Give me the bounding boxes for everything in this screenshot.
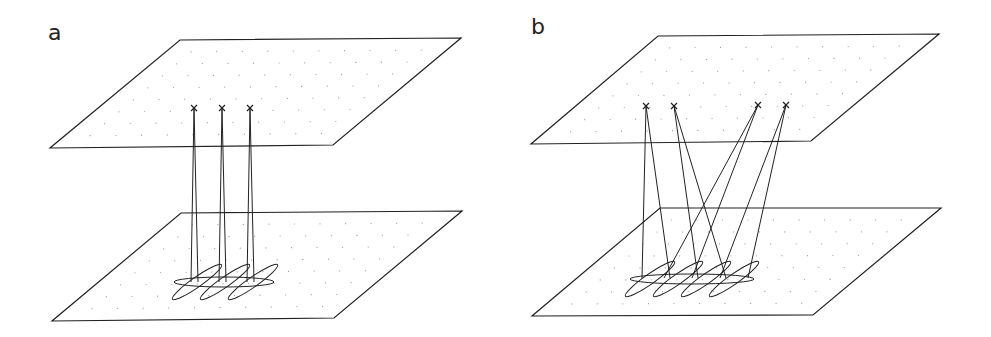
panel-b-bottom-plane-grid-dot: [807, 255, 808, 256]
panel-a-top-plane-grid-dot: [264, 74, 265, 75]
panel-a-top-plane-grid-dot: [235, 98, 236, 99]
panel-b-top-plane-grid-dot: [845, 70, 846, 71]
panel-b-bottom-plane-grid-dot: [767, 267, 768, 268]
panel-a-bottom-plane-grid-dot: [336, 294, 337, 295]
panel-b-top-plane-grid-dot: [638, 95, 639, 96]
panel-b-bottom-plane-grid-dot: [639, 267, 640, 268]
panel-a-bottom-plane-grid-dot: [211, 272, 212, 273]
panel-a-bottom-plane-grid-dot: [203, 236, 204, 237]
panel-a-bottom-plane-grid-dot: [208, 295, 209, 296]
panel-a-top-plane-grid-dot: [224, 87, 225, 88]
panel-b-bottom-plane-grid-dot: [747, 219, 748, 220]
panel-b-bottom-plane-grid-dot: [671, 219, 672, 220]
panel-a-top-plane-grid-dot: [133, 99, 134, 100]
panel-b-top-plane-grid-dot: [666, 71, 667, 72]
panel-b-bottom-plane-grid-dot: [778, 279, 779, 280]
panel-b-top-plane-grid-dot: [737, 118, 738, 119]
panel-b-top-plane-grid-dot: [833, 58, 834, 59]
panel-b-top-plane-grid-dot: [848, 46, 849, 47]
panel-b-bottom-plane-grid-dot: [739, 291, 740, 292]
panel-a-top-plane: [50, 38, 461, 148]
panel-a-bottom-plane-grid-dot: [407, 234, 408, 235]
panel-b-bottom-plane-grid-dot: [858, 255, 859, 256]
panel-a-top-plane-grid-dot: [421, 50, 422, 51]
panel-a-bottom-plane-grid-dot: [217, 224, 218, 225]
panel-b-bottom-plane-grid-dot: [796, 243, 797, 244]
panel-a-bottom-plane-grid-dot: [396, 223, 397, 224]
panel-b-top-plane-grid-dot: [717, 71, 718, 72]
panel-a-top-plane-grid-dot: [227, 63, 228, 64]
panel-a-bottom-plane-grid-dot: [163, 248, 164, 249]
panel-b-top-plane-grid-dot: [646, 130, 647, 131]
panel-b-bottom-plane-grid-dot: [611, 291, 612, 292]
panel-a-bottom-plane-grid-dot: [288, 271, 289, 272]
panel-a-bottom-plane-grid-dot: [277, 259, 278, 260]
panel-b-top-plane-grid-dot: [842, 93, 843, 94]
panel-a-bottom-plane-grid-dot: [234, 295, 235, 296]
panel-b-top-plane-grid-dot: [782, 58, 783, 59]
panel-a-top-plane-grid-dot: [287, 98, 288, 99]
panel-b-top-plane-grid-dot: [745, 47, 746, 48]
panel-b-bottom-plane-grid-dot: [781, 255, 782, 256]
panel-a-top-plane-grid-dot: [141, 135, 142, 136]
panel-a-bottom-plane-grid-dot: [174, 260, 175, 261]
panel-a-bottom-plane-grid-dot: [339, 270, 340, 271]
panel-b-bottom-plane-grid-dot: [724, 303, 725, 304]
panel-b-top-plane-grid-dot: [768, 70, 769, 71]
panel-a-top-plane-grid-dot: [310, 121, 311, 122]
panel-label-a: a: [48, 22, 61, 44]
panel-b-bottom-plane-grid-dot: [850, 219, 851, 220]
panel-b-top-plane-grid-dot: [797, 46, 798, 47]
panel-a-beam-line: [194, 108, 198, 282]
panel-b-top-plane-grid-dot: [689, 95, 690, 96]
panel-b-top-plane-grid-dot: [762, 117, 763, 118]
panel-a-bottom-plane-grid-dot: [393, 246, 394, 247]
panel-b-top-plane-grid-dot: [621, 131, 622, 132]
panel-b-bottom-plane-grid-dot: [648, 303, 649, 304]
panel-b-top-plane-grid-dot: [873, 46, 874, 47]
panel-a-bottom-plane-grid-dot: [311, 294, 312, 295]
panel-a-bottom-plane-grid-dot: [222, 283, 223, 284]
panel-a-beam-line: [191, 108, 194, 282]
panel-b-top-plane-grid-dot: [777, 106, 778, 107]
panel-a-top-plane-grid-dot: [130, 123, 131, 124]
panel-b-beam-line: [642, 106, 646, 278]
panel-b-bottom-plane-grid-dot: [713, 291, 714, 292]
panel-b-bottom-plane-grid-dot: [824, 219, 825, 220]
panel-a-bottom-plane-grid-dot: [254, 236, 255, 237]
panel-b-top-plane-grid-dot: [859, 58, 860, 59]
panel-a-bottom-plane-grid-dot: [314, 271, 315, 272]
panel-b-top-plane-grid-dot: [870, 69, 871, 70]
panel-a-bottom-plane-grid-dot: [245, 307, 246, 308]
panel-b-top-plane-grid-dot: [819, 70, 820, 71]
panel-b-bottom-plane-grid-dot: [810, 231, 811, 232]
panel-b-bottom-plane-grid-dot: [861, 231, 862, 232]
panel-a-top-plane-grid-dot: [284, 121, 285, 122]
panel-a-bottom-plane-grid-dot: [345, 223, 346, 224]
panel-b-top-plane-grid-dot: [692, 71, 693, 72]
panel-b-top-plane-grid-dot: [612, 95, 613, 96]
panel-b-bottom-plane-grid-dot: [764, 291, 765, 292]
panel-a-bottom-plane-grid-dot: [197, 283, 198, 284]
panel-b-bottom-plane-grid-dot: [676, 279, 677, 280]
panel-a-top-plane-grid-dot: [352, 85, 353, 86]
panel-b-top-plane-grid-dot: [751, 106, 752, 107]
panel-a-top-plane-grid-dot: [250, 86, 251, 87]
panel-b-top-plane-grid-dot: [652, 83, 653, 84]
panel-label-b: b: [531, 16, 545, 38]
panel-a-top-plane-grid-dot: [242, 51, 243, 52]
panel-a-top-plane-grid-dot: [312, 98, 313, 99]
panel-a-bottom-plane-grid-dot: [319, 223, 320, 224]
panel-b-top-plane-grid-dot: [780, 82, 781, 83]
panel-a-bottom-plane-grid-dot: [422, 223, 423, 224]
panel-a-top-plane-grid-dot: [278, 62, 279, 63]
panel-a-bottom-plane-grid-dot: [285, 294, 286, 295]
panel-b-top-plane-grid-dot: [831, 81, 832, 82]
panel-b-beam-line: [646, 106, 670, 278]
panel-b-bottom-plane-grid-dot: [665, 267, 666, 268]
panel-b-bottom-plane-grid-dot: [716, 267, 717, 268]
panel-a-bottom-plane-grid-dot: [271, 306, 272, 307]
panel-a-top-plane-grid-dot: [295, 133, 296, 134]
panel-b-bottom-plane-grid-dot: [784, 231, 785, 232]
panel-a-top-plane-grid-dot: [210, 99, 211, 100]
